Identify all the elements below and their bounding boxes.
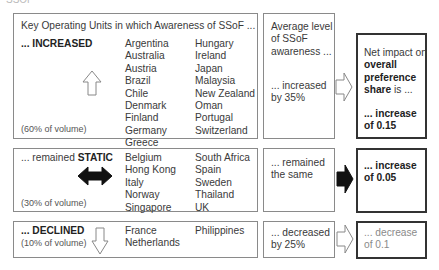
impact-line: ... increase (364, 108, 417, 120)
declined-awareness-value: ... decreased by 25% (271, 227, 330, 252)
country: Malaysia (195, 75, 255, 87)
country: Argentina (125, 38, 169, 50)
increased-label: ... INCREASED (21, 38, 92, 50)
impact-title: Net impact on overall preference share i… (364, 47, 427, 97)
country: Australia (125, 50, 169, 62)
impact-title-line: share is ... (364, 84, 427, 96)
right-arrow-outline-icon (336, 224, 354, 254)
impact-title-post: is ... (391, 84, 413, 95)
awareness-line: ... increased (271, 80, 327, 92)
country: Italy (125, 177, 176, 189)
country: Oman (195, 100, 255, 112)
country: Singapore (125, 202, 176, 214)
country: Spain (195, 164, 250, 176)
declined-impact-value: ... decrease of 0.1 (364, 227, 417, 252)
units-header: Key Operating Units in which Awareness o… (21, 20, 255, 32)
declined-countries-col2: Philippines (195, 225, 244, 237)
country: New Zealand (195, 88, 255, 100)
country: Philippines (195, 225, 244, 237)
country: Ireland (195, 50, 255, 62)
impact-title-line: preference (364, 72, 427, 84)
cropped-top-text: SSOF (6, 0, 33, 5)
country: Sweden (195, 177, 250, 189)
left-right-arrow-icon (77, 166, 113, 186)
impact-line: ... decrease (364, 227, 417, 239)
down-arrow-icon (91, 227, 109, 255)
country: Netherlands (125, 237, 180, 249)
country: Switzerland (195, 125, 255, 137)
awareness-title: Average level of SSoF awareness ... (271, 21, 333, 58)
right-arrow-outline-icon (335, 72, 353, 102)
country: Thailand (195, 189, 250, 201)
country: Austria (125, 63, 169, 75)
impact-line: of 0.1 (364, 239, 417, 251)
country: Hong Kong (125, 164, 176, 176)
awareness-line: by 35% (271, 92, 327, 104)
increased-countries-col1: Argentina Australia Austria Brazil Chile… (125, 38, 169, 150)
static-awareness-value: ... remained the same (271, 157, 325, 182)
declined-label: ... DECLINED (21, 225, 84, 237)
awareness-line: ... decreased (271, 227, 330, 239)
country: Finland (125, 112, 169, 124)
increased-keyword: INCREASED (32, 38, 92, 49)
static-volume: (30% of volume) (21, 197, 87, 209)
declined-prefix: ... (21, 225, 32, 236)
country: Norway (125, 189, 176, 201)
increased-countries-col2: Hungary Ireland Japan Malaysia New Zeala… (195, 38, 255, 137)
awareness-line: by 25% (271, 239, 330, 251)
country: Japan (195, 63, 255, 75)
country: Belgium (125, 152, 176, 164)
country: South Africa (195, 152, 250, 164)
declined-keyword: DECLINED (32, 225, 84, 236)
impact-line: of 0.15 (364, 120, 417, 132)
awareness-line: ... remained (271, 157, 325, 169)
right-arrow-solid-icon (336, 164, 354, 194)
awareness-title-line: of SSoF (271, 33, 333, 45)
up-arrow-icon (82, 70, 102, 96)
declined-volume: (10% of volume) (21, 237, 87, 249)
country: Brazil (125, 75, 169, 87)
impact-line: of 0.05 (364, 172, 417, 184)
country: UK (195, 202, 250, 214)
static-keyword: STATIC (78, 152, 113, 163)
increased-impact-value: ... increase of 0.15 (364, 108, 417, 133)
static-countries-col1: Belgium Hong Kong Italy Norway Singapore (125, 152, 176, 214)
impact-title-line: overall (364, 59, 427, 71)
country: Hungary (195, 38, 255, 50)
increased-prefix: ... (21, 38, 32, 49)
increased-awareness-value: ... increased by 35% (271, 80, 327, 105)
static-impact-value: ... increase of 0.05 (364, 160, 417, 185)
static-prefix: ... remained (21, 152, 78, 163)
awareness-title-line: awareness ... (271, 46, 333, 58)
country: Germany (125, 125, 169, 137)
static-label: ... remained STATIC (21, 152, 113, 164)
static-countries-col2: South Africa Spain Sweden Thailand UK (195, 152, 250, 214)
country: France (125, 225, 180, 237)
impact-title-bold: share (364, 84, 391, 95)
impact-line: ... increase (364, 160, 417, 172)
increased-volume: (60% of volume) (21, 123, 87, 135)
impact-title-line: Net impact on (364, 47, 427, 59)
country: Portugal (195, 112, 255, 124)
awareness-line: the same (271, 169, 325, 181)
awareness-title-line: Average level (271, 21, 333, 33)
country: Denmark (125, 100, 169, 112)
declined-countries-col1: France Netherlands (125, 225, 180, 250)
country: Chile (125, 88, 169, 100)
